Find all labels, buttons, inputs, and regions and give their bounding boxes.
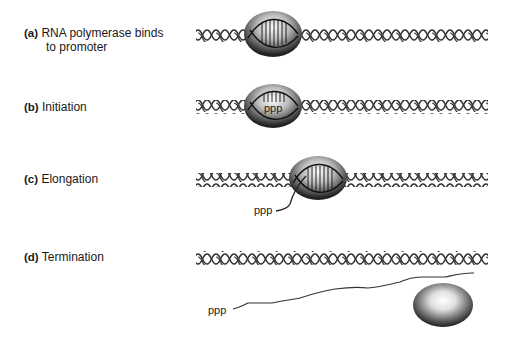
rna-polymerase-b: ppp: [244, 84, 302, 128]
dna-helix-b: [196, 100, 488, 114]
dna-helix-d: [196, 251, 488, 265]
ppp-label-c: ppp: [254, 204, 272, 216]
dna-helix-a: [196, 28, 488, 42]
rna-polymerase-a: [244, 11, 302, 57]
ppp-label-d: ppp: [208, 304, 226, 316]
ppp-label-b: ppp: [264, 102, 282, 114]
released-rna-polymerase: [413, 283, 473, 327]
transcription-diagram: ppp ppp ppp: [0, 0, 513, 344]
